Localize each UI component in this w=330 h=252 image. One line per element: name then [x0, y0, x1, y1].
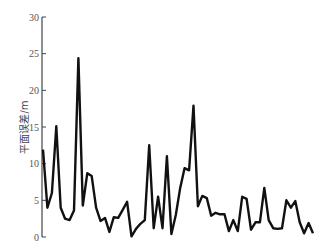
y-tick-label: 15	[29, 122, 39, 133]
y-tick-label: 0	[34, 232, 39, 243]
series-line	[43, 58, 313, 236]
y-axis-label: 平面误差/m	[18, 100, 30, 153]
line-chart: 051015202530 平面误差/m	[0, 0, 330, 252]
y-tick-label: 5	[34, 195, 39, 206]
y-tick-label: 20	[29, 85, 39, 96]
y-tick-label: 25	[29, 48, 39, 59]
y-tick-label: 30	[29, 12, 39, 23]
y-tick-label: 10	[29, 158, 39, 169]
y-axis: 051015202530	[29, 12, 46, 243]
